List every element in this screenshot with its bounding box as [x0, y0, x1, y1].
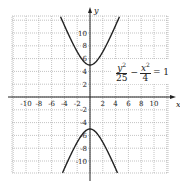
y-tick-label: 8 — [83, 42, 87, 50]
x-axis-arrow-icon — [170, 95, 176, 99]
x-denominator: 4 — [142, 74, 150, 83]
x-exp: 2 — [146, 61, 150, 68]
equals-one: = 1 — [153, 67, 169, 77]
x-tick-label: -4 — [61, 100, 68, 108]
x-tick-label: 6 — [126, 100, 131, 108]
y-denominator: 25 — [115, 74, 128, 83]
y-tick-label: -8 — [80, 145, 87, 153]
y-exp: 2 — [122, 61, 126, 68]
x-fraction: x2 4 — [140, 60, 151, 83]
equation-label: y2 25 − x2 4 = 1 — [112, 59, 172, 84]
y-tick-label: -4 — [80, 119, 87, 127]
y-tick-label: 2 — [83, 81, 87, 89]
x-tick-label: 4 — [113, 100, 118, 108]
x-axis-label: x — [176, 100, 180, 109]
x-tick-label: 8 — [139, 100, 143, 108]
x-tick-label: -10 — [20, 100, 31, 108]
x-tick-label: -8 — [35, 100, 42, 108]
y-axis-label: y — [93, 6, 99, 15]
x-tick-label: -6 — [48, 100, 55, 108]
y-tick-label: 10 — [78, 30, 87, 38]
y-tick-label: -2 — [80, 106, 87, 114]
y-tick-label: -10 — [76, 158, 87, 166]
y-axis-arrow-icon — [88, 7, 92, 13]
y-tick-label: 4 — [83, 68, 88, 76]
x-tick-label: 10 — [150, 100, 159, 108]
y-fraction: y2 25 — [115, 60, 128, 83]
minus-sign: − — [130, 67, 138, 77]
hyperbola-plot: xy -10-8-6-4-2246810108642-2-4-6-8-10 — [0, 0, 180, 189]
x-tick-label: 2 — [101, 100, 105, 108]
